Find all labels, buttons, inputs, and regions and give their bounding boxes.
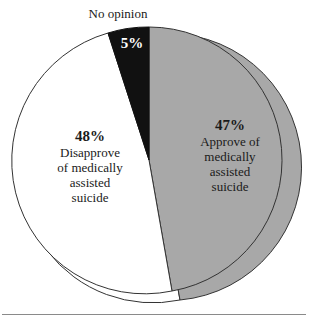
- approve-percent: 47%: [175, 117, 285, 134]
- approve-desc-2: medically: [175, 149, 285, 164]
- disapprove-desc-2: of medically: [35, 160, 145, 175]
- approve-desc-4: suicide: [175, 179, 285, 194]
- approve-desc-3: assisted: [175, 164, 285, 179]
- approve-label: 47% Approve of medically assisted suicid…: [175, 117, 285, 194]
- bottom-rule: [2, 314, 306, 315]
- no-opinion-label: No opinion: [68, 6, 168, 22]
- disapprove-desc-4: suicide: [35, 190, 145, 205]
- disapprove-desc-3: assisted: [35, 175, 145, 190]
- no-opinion-percent: 5%: [112, 35, 152, 52]
- disapprove-percent: 48%: [35, 128, 145, 145]
- disapprove-label: 48% Disapprove of medically assisted sui…: [35, 128, 145, 205]
- disapprove-desc-1: Disapprove: [35, 145, 145, 160]
- approve-desc-1: Approve of: [175, 134, 285, 149]
